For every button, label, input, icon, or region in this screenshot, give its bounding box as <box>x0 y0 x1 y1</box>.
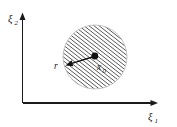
y-axis-label-symbol: ξ <box>8 13 13 25</box>
y-axis-arrowhead <box>20 13 26 21</box>
radius-label: r <box>54 61 58 71</box>
center-point-marker <box>91 53 98 60</box>
x-axis-label-symbol: ξ <box>148 111 153 123</box>
y-axis-label-subscript: 2 <box>15 19 19 27</box>
center-point-label-subscript: 0 <box>103 67 107 75</box>
x-axis-label-subscript: 1 <box>155 117 159 125</box>
y-axis-group <box>20 13 26 104</box>
coordinate-plane-figure: ξ 2 ξ 1 r x 0 <box>0 0 177 127</box>
y-axis-label: ξ 2 <box>8 13 19 27</box>
center-point-label-symbol: x <box>96 62 102 72</box>
figure-container: ξ 2 ξ 1 r x 0 <box>0 0 177 127</box>
x-axis-label: ξ 1 <box>148 111 158 125</box>
x-axis-group <box>23 100 159 106</box>
x-axis-arrowhead <box>151 100 159 106</box>
